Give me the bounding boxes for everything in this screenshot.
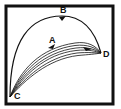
arrowhead-b-icon [59, 16, 66, 21]
frame [6, 6, 113, 104]
label-d: D [103, 49, 110, 59]
label-a: A [49, 35, 56, 45]
lower-bundle-c-a-d [10, 43, 101, 97]
upper-arc-c-b-d [10, 16, 101, 97]
label-c: C [14, 91, 21, 101]
diagram: B A C D [0, 0, 121, 109]
label-b: B [60, 5, 67, 15]
